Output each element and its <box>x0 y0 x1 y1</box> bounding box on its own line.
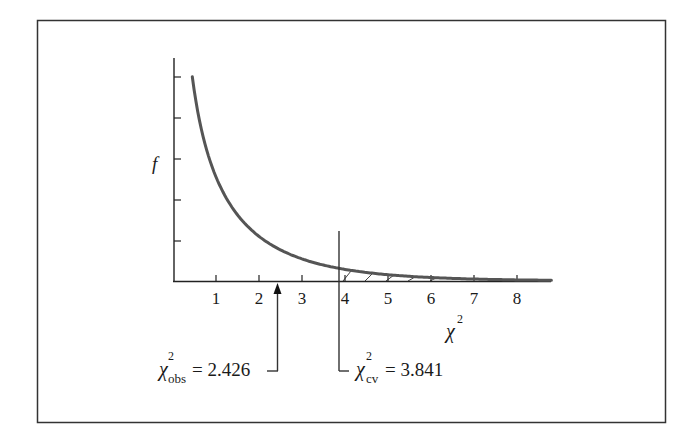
svg-text:= 2.426: = 2.426 <box>192 359 250 380</box>
figure-frame <box>38 21 666 423</box>
svg-text:2: 2 <box>366 349 372 363</box>
density-curve <box>192 77 551 280</box>
axes <box>173 58 551 282</box>
svg-text:2: 2 <box>168 349 174 363</box>
svg-text:χ: χ <box>354 358 366 381</box>
svg-text:cv: cv <box>366 371 379 386</box>
x-tick-label: 5 <box>384 289 393 308</box>
x-axis-label: χ <box>444 320 456 343</box>
x-tick-label: 8 <box>513 289 522 308</box>
x-tick-label: 7 <box>470 289 479 308</box>
arrowhead-icon <box>274 283 282 294</box>
x-tick-labels: 1 2 3 4 5 6 7 8 <box>212 289 522 308</box>
x-tick-label: 4 <box>341 289 350 308</box>
x-tick-label: 3 <box>298 289 307 308</box>
x-tick-label: 2 <box>255 289 264 308</box>
x-tick-label: 6 <box>427 289 436 308</box>
critical-annotation: χ 2 cv = 3.841 <box>354 349 443 386</box>
svg-text:= 3.841: = 3.841 <box>385 359 443 380</box>
y-axis-label: f <box>152 153 160 174</box>
x-axis-label-superscript: 2 <box>457 312 463 326</box>
svg-text:obs: obs <box>168 371 186 386</box>
x-tick-label: 1 <box>212 289 221 308</box>
observed-annotation: χ 2 obs = 2.426 <box>157 349 250 386</box>
y-ticks <box>174 77 181 241</box>
chi-square-figure: 1 2 3 4 5 6 7 8 f χ 2 χ 2 obs = 2.426 χ … <box>0 0 697 437</box>
